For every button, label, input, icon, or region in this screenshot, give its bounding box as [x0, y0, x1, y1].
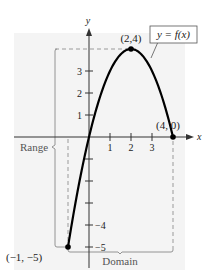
x-tick-label: 1	[108, 142, 113, 153]
y-tick-label: 2	[77, 88, 82, 99]
point-label: (−1, −5)	[6, 251, 43, 264]
x-axis-label: x	[196, 131, 202, 142]
y-axis-label: y	[85, 15, 91, 26]
y-axis-arrow	[86, 28, 92, 36]
data-point	[65, 244, 71, 250]
x-axis-arrow	[186, 134, 194, 140]
point-label: (4, 0)	[156, 119, 180, 132]
data-point	[170, 134, 176, 140]
x-tick-label: 2	[129, 142, 134, 153]
point-label: (2,4)	[120, 32, 141, 45]
data-point	[128, 46, 134, 52]
y-tick-label: −4	[95, 220, 106, 231]
x-tick-label: 3	[150, 142, 155, 153]
function-label: y = f(x)	[156, 28, 190, 41]
y-tick-label: 3	[77, 66, 82, 77]
domain-label: Domain	[102, 255, 138, 267]
function-graph: x y 123321−4−5 (2,4)(4, 0)(−1, −5) y = f…	[0, 0, 211, 274]
y-tick-label: −5	[95, 242, 106, 253]
range-label: Range	[20, 141, 48, 153]
y-tick-label: 1	[77, 110, 82, 121]
